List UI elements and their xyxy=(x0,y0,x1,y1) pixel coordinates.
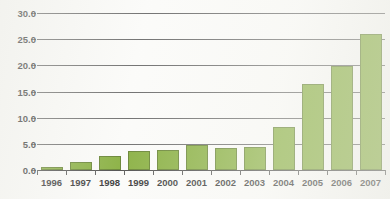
x-tick-mark xyxy=(356,170,357,175)
x-tick-label-2005: 2005 xyxy=(302,177,323,188)
bar-2001 xyxy=(186,145,208,170)
x-tick-label-1999: 1999 xyxy=(128,177,149,188)
x-tick-mark xyxy=(211,170,212,175)
x-tick-label-2006: 2006 xyxy=(331,177,352,188)
bar-2007 xyxy=(360,34,382,170)
y-tick-label: 30.0 xyxy=(0,8,36,19)
bar-1999 xyxy=(128,151,150,170)
x-tick-mark xyxy=(66,170,67,175)
x-tick-label-2002: 2002 xyxy=(215,177,236,188)
y-tick-label: 0.0 xyxy=(0,165,36,176)
x-tick-mark xyxy=(327,170,328,175)
y-tick-label: 20.0 xyxy=(0,60,36,71)
x-tick-label-2003: 2003 xyxy=(244,177,265,188)
bar-1996 xyxy=(41,167,63,170)
x-tick-label-2000: 2000 xyxy=(157,177,178,188)
bar-2003 xyxy=(244,147,266,170)
x-tick-mark xyxy=(124,170,125,175)
x-tick-mark xyxy=(95,170,96,175)
bar-2004 xyxy=(273,127,295,170)
y-tick-label: 15.0 xyxy=(0,86,36,97)
x-tick-label-1996: 1996 xyxy=(41,177,62,188)
x-tick-mark xyxy=(182,170,183,175)
x-tick-label-2004: 2004 xyxy=(273,177,294,188)
bar-2005 xyxy=(302,84,324,170)
x-tick-mark xyxy=(153,170,154,175)
x-tick-label-1998: 1998 xyxy=(99,177,120,188)
y-tick-label: 10.0 xyxy=(0,112,36,123)
bar-2002 xyxy=(215,148,237,171)
x-tick-mark xyxy=(269,170,270,175)
x-tick-label-2001: 2001 xyxy=(186,177,207,188)
bar-chart: 1996199719981999200020012002200320042005… xyxy=(0,0,390,199)
y-tick-label: 25.0 xyxy=(0,34,36,45)
x-tick-label-2007: 2007 xyxy=(360,177,381,188)
y-tick-label: 5.0 xyxy=(0,138,36,149)
x-tick-mark xyxy=(37,170,38,175)
x-tick-label-1997: 1997 xyxy=(70,177,91,188)
bar-2006 xyxy=(331,66,353,170)
x-tick-mark xyxy=(385,170,386,175)
bar-2000 xyxy=(157,150,179,170)
x-tick-mark xyxy=(298,170,299,175)
bar-1998 xyxy=(99,156,121,170)
plot-area xyxy=(37,13,385,170)
bars-layer xyxy=(37,13,385,170)
bar-1997 xyxy=(70,162,92,170)
x-tick-mark xyxy=(240,170,241,175)
